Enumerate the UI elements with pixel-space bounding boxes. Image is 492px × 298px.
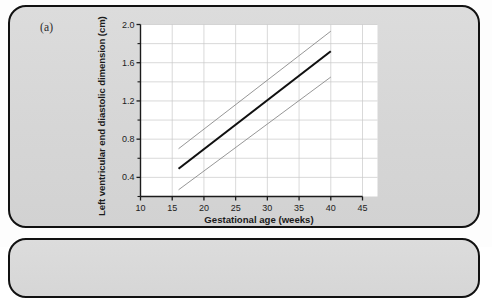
x-tick-label: 25	[231, 203, 241, 213]
x-tick-label: 35	[294, 203, 304, 213]
y-tick-label: 2.0	[113, 20, 135, 30]
y-axis-title: Left ventricular end diastolic dimension…	[96, 36, 107, 216]
y-tick-label: 1.6	[113, 58, 135, 68]
x-axis-title: Gestational age (weeks)	[140, 214, 378, 225]
figure-panel-a: (a)	[8, 5, 480, 228]
x-tick-label: 15	[167, 203, 177, 213]
y-tick-label: 1.2	[113, 96, 135, 106]
x-tick-label: 40	[326, 203, 336, 213]
x-tick-label: 45	[357, 203, 367, 213]
y-tick-label: 0.4	[113, 172, 135, 182]
x-tick-label: 30	[262, 203, 272, 213]
y-tick-label: 0.8	[113, 134, 135, 144]
panel-letter-label: (a)	[40, 21, 53, 33]
figure-panel-b-partial	[8, 238, 480, 298]
x-tick-label: 10	[135, 203, 145, 213]
x-tick-label: 20	[199, 203, 209, 213]
